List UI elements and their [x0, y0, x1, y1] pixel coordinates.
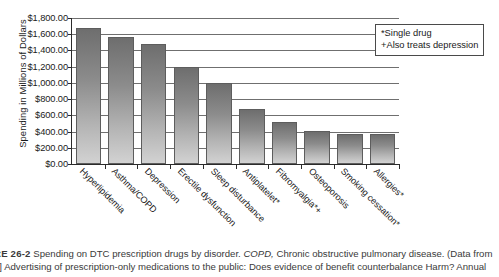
- y-tick-label: $1,600.00: [28, 29, 68, 39]
- bar: [239, 109, 265, 164]
- figure-container: Spending in Millions of Dollars $1,800.0…: [0, 0, 499, 277]
- bar-series: [72, 18, 399, 164]
- x-axis-label: Erectile dysfunction: [176, 166, 238, 228]
- y-tickmark: [68, 164, 72, 165]
- bar: [141, 44, 167, 164]
- bar: [174, 67, 200, 164]
- figure-number: RE 26-2: [0, 248, 31, 259]
- y-tick-label: $600.00: [35, 110, 68, 120]
- bar: [272, 122, 298, 164]
- bar-chart: Spending in Millions of Dollars $1,800.0…: [0, 0, 499, 236]
- bar: [108, 37, 134, 164]
- legend-line-single-drug: *Single drug: [381, 28, 478, 40]
- caption-line-1-text: Spending on DTC prescription drugs by di…: [33, 248, 240, 259]
- legend-line-also-treats-depression: +Also treats depression: [381, 40, 478, 52]
- x-axis-label: Allergies*: [372, 166, 406, 200]
- legend-box: *Single drug +Also treats depression: [375, 24, 484, 56]
- bar: [206, 83, 232, 164]
- caption-copd-italic: COPD,: [243, 248, 273, 259]
- y-tick-label: $1,400.00: [28, 45, 68, 55]
- y-tick-label: $1,200.00: [28, 62, 68, 72]
- y-tick-label: $1,800.00: [28, 13, 68, 23]
- bar: [370, 134, 396, 164]
- bar: [304, 131, 330, 164]
- y-tick-label: $400.00: [35, 127, 68, 137]
- y-tick-label: $0.00: [45, 159, 68, 169]
- caption-line-1: RE 26-2 Spending on DTC prescription dru…: [0, 247, 499, 260]
- bar: [337, 134, 363, 164]
- caption-line-1-tail: Chronic obstructive pulmonary disease. (…: [276, 248, 492, 259]
- bar: [76, 28, 102, 164]
- x-axis-category-labels: HyperlipidemiaAsthma/COPDDepressionErect…: [71, 166, 431, 236]
- y-tick-label: $800.00: [35, 94, 68, 104]
- y-tick-label: $1,000.00: [28, 78, 68, 88]
- plot-area: [71, 18, 399, 165]
- x-axis-label: Smoking cessation*: [339, 166, 402, 229]
- caption-line-2: 2] Advertising of prescription-only medi…: [0, 260, 499, 273]
- y-axis-tick-labels: $1,800.00$1,600.00$1,400.00$1,200.00$1,0…: [18, 12, 68, 168]
- figure-caption: RE 26-2 Spending on DTC prescription dru…: [0, 247, 499, 273]
- y-tick-label: $200.00: [35, 143, 68, 153]
